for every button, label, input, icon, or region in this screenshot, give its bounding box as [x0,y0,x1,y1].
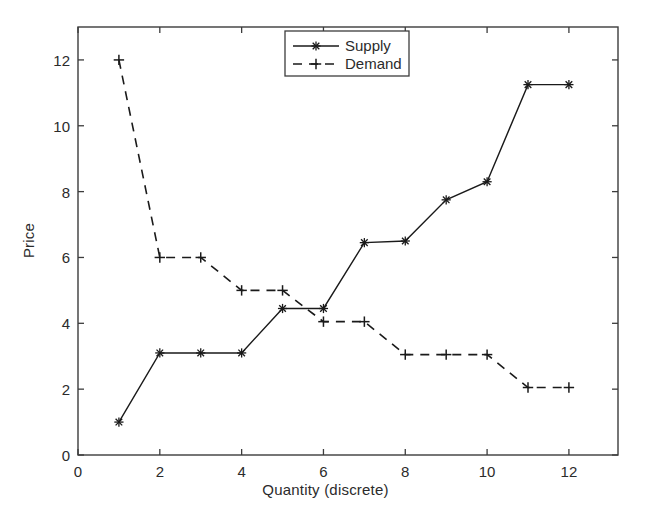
plot-canvas: Supply Demand [0,0,651,518]
legend-supply-marker [311,41,320,50]
x-axis-label: Quantity (discrete) [0,481,651,498]
x-tick-label: 6 [319,463,327,480]
y-tick-label: 2 [20,381,70,398]
x-tick-label: 8 [401,463,409,480]
chart-figure: Supply Demand 024681012 024681012 Quanti… [0,0,651,518]
plot-frame [78,27,618,455]
y-axis-label: Price [20,191,37,291]
x-tick-label: 0 [74,463,82,480]
x-tick-label: 4 [237,463,245,480]
x-tick-label: 12 [561,463,578,480]
y-tick-label: 10 [20,117,70,134]
chart-legend[interactable]: Supply Demand [285,31,409,76]
y-tick-label: 4 [20,315,70,332]
legend-label-supply: Supply [345,37,391,54]
x-tick-label: 10 [479,463,496,480]
legend-label-demand: Demand [345,55,402,72]
x-tick-label: 2 [156,463,164,480]
y-tick-label: 0 [20,447,70,464]
y-tick-label: 12 [20,51,70,68]
